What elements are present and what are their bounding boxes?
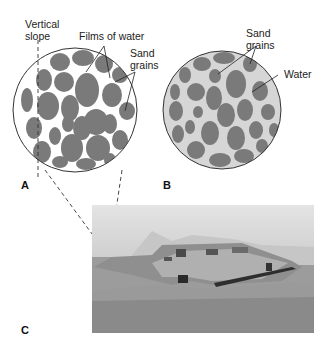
label-water: Water xyxy=(284,68,312,80)
label-sand-grains-b-line1: Sand xyxy=(246,27,271,39)
panel-label-b: B xyxy=(163,179,171,191)
panel-label-a: A xyxy=(21,179,29,191)
sand-castle-photo xyxy=(92,205,314,333)
label-sand-grains-b-line2: grains xyxy=(246,39,275,51)
label-vertical-slope-line2: slope xyxy=(25,30,50,42)
label-films-of-water: Films of water xyxy=(79,30,144,42)
circle-b-sand-grains xyxy=(163,51,281,169)
label-sand-grains-a-line1: Sand xyxy=(130,47,155,59)
circle-a-sand-grains xyxy=(13,48,137,172)
label-sand-grains-a-line2: grains xyxy=(130,59,159,71)
label-vertical-slope-line1: Vertical xyxy=(25,18,59,30)
panel-label-c: C xyxy=(21,324,29,336)
